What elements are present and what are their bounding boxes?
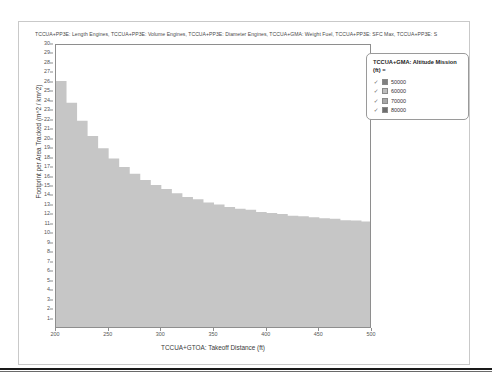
chart-panel: TCCUA+PP3E: Length Engines, TCCUA+PP3E: … — [18, 21, 470, 365]
legend-swatch — [382, 88, 388, 94]
x-axis-label: TCCUA+GTOA: Takeoff Distance (ft) — [55, 344, 371, 351]
x-tick-label: 200 — [51, 332, 60, 337]
legend-swatch — [382, 79, 388, 85]
y-tick-mark — [50, 129, 53, 130]
legend-label: 50000 — [391, 79, 406, 85]
y-tick-mark — [50, 233, 53, 234]
legend-label: 80000 — [391, 107, 406, 113]
x-tick-mark — [371, 328, 372, 331]
bottom-divider — [0, 368, 492, 370]
x-tick-label: 450 — [314, 332, 323, 337]
legend-title: TCCUA+GMA: Altitude Mission (ft) = — [373, 59, 462, 74]
x-tick-mark — [213, 328, 214, 331]
legend-checkbox-icon[interactable]: ✓ — [373, 98, 379, 104]
x-tick-mark — [318, 328, 319, 331]
legend-item-50000[interactable]: ✓50000 — [373, 77, 462, 87]
y-tick-mark — [50, 110, 53, 111]
x-tick-mark — [108, 328, 109, 331]
legend-checkbox-icon[interactable]: ✓ — [373, 79, 379, 85]
y-tick-mark — [50, 119, 53, 120]
x-tick-label: 400 — [261, 332, 270, 337]
stacked-area-bands — [56, 45, 370, 327]
x-tick-label: 300 — [156, 332, 165, 337]
x-tick-label: 250 — [103, 332, 112, 337]
y-axis-ticks: 1234567891011121314151617181920212223242… — [19, 44, 53, 328]
legend-swatch — [382, 107, 388, 113]
y-tick-mark — [50, 100, 53, 101]
x-axis-ticks: 200250300350400450500 — [55, 328, 371, 342]
x-tick-label: 500 — [367, 332, 376, 337]
y-tick-mark — [50, 261, 53, 262]
y-tick-mark — [50, 72, 53, 73]
y-tick-mark — [50, 186, 53, 187]
x-tick-label: 350 — [209, 332, 218, 337]
x-tick-mark — [266, 328, 267, 331]
x-tick-mark — [160, 328, 161, 331]
x-tick-mark — [55, 328, 56, 331]
y-tick-mark — [50, 176, 53, 177]
y-tick-mark — [50, 195, 53, 196]
y-tick-mark — [50, 157, 53, 158]
legend-checkbox-icon[interactable]: ✓ — [373, 107, 379, 113]
legend-box[interactable]: TCCUA+GMA: Altitude Mission (ft) = ✓5000… — [366, 53, 469, 120]
legend-label: 60000 — [391, 88, 406, 94]
y-tick-mark — [50, 81, 53, 82]
y-tick-mark — [50, 204, 53, 205]
y-tick-mark — [50, 91, 53, 92]
y-tick-mark — [50, 309, 53, 310]
area-band-60000 — [56, 81, 371, 328]
y-tick-mark — [50, 138, 53, 139]
y-tick-mark — [50, 242, 53, 243]
y-tick-mark — [50, 271, 53, 272]
y-tick-mark — [50, 280, 53, 281]
plot-area — [55, 44, 371, 328]
legend-swatch — [382, 98, 388, 104]
area-series-svg — [56, 45, 371, 328]
y-tick-mark — [50, 44, 53, 45]
legend-item-70000[interactable]: ✓70000 — [373, 96, 462, 106]
legend-label: 70000 — [391, 98, 406, 104]
legend-item-80000[interactable]: ✓80000 — [373, 106, 462, 116]
legend-checkbox-icon[interactable]: ✓ — [373, 88, 379, 94]
bottom-divider-secondary — [0, 371, 492, 372]
y-tick-mark — [50, 148, 53, 149]
y-tick-mark — [50, 53, 53, 54]
y-tick-mark — [50, 167, 53, 168]
chart-title: TCCUA+PP3E: Length Engines, TCCUA+PP3E: … — [35, 28, 471, 40]
y-tick-mark — [50, 223, 53, 224]
y-tick-mark — [50, 299, 53, 300]
y-tick-mark — [50, 62, 53, 63]
legend-items: ✓50000✓60000✓70000✓80000 — [373, 77, 462, 115]
y-tick-mark — [50, 318, 53, 319]
legend-item-60000[interactable]: ✓60000 — [373, 87, 462, 97]
y-tick-mark — [50, 252, 53, 253]
y-tick-mark — [50, 290, 53, 291]
y-tick-mark — [50, 214, 53, 215]
